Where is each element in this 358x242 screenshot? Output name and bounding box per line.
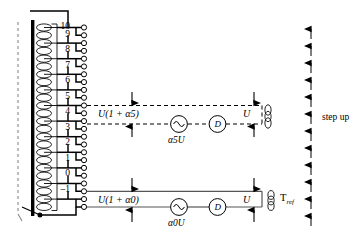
winding-coil: [37, 24, 52, 211]
lower-output-coil-icon: [268, 191, 274, 211]
tap-label-minus-1: –1: [50, 185, 70, 195]
reference-transformer-label: Tref: [280, 193, 294, 206]
step-up-label: step up: [322, 113, 349, 123]
tap-label-7: 7: [52, 61, 70, 71]
upper-output-label: U: [243, 109, 250, 119]
lower-detector-label: D: [215, 203, 222, 212]
tap-label-0: 0: [52, 169, 70, 179]
lower-output-label: U: [243, 195, 250, 205]
upper-source-label: α5U: [168, 136, 185, 146]
schematic-diagram: 10 9 8 7 6 5 4 3 2 1 0 –1 U(1 + α5) α5U …: [0, 0, 358, 242]
tap-label-4: 4: [52, 107, 70, 117]
lower-ac-source-icon: [171, 199, 188, 216]
tap-label-8: 8: [52, 45, 70, 55]
reference-transformer-subscript: ref: [286, 198, 294, 206]
bottom-supply-lead: [40, 207, 76, 215]
tap-label-5: 5: [52, 92, 70, 102]
tap-label-3: 3: [52, 123, 70, 133]
tap-label-2: 2: [52, 138, 70, 148]
tap-label-1: 1: [52, 154, 70, 164]
left-dashed-reference-line: [18, 22, 22, 221]
lower-source-label: α0U: [168, 219, 185, 229]
top-supply-lead: [30, 11, 68, 20]
magnetic-core-bar: [31, 20, 34, 216]
upper-output-coil-icon: [265, 105, 271, 128]
upper-ac-source-icon: [171, 116, 188, 133]
tap-label-9: 9: [52, 30, 70, 40]
upper-voltage-label: U(1 + α5): [98, 109, 139, 119]
tap-label-6: 6: [52, 76, 70, 86]
upper-detector-label: D: [215, 120, 222, 129]
lower-voltage-label: U(1 + α0): [98, 195, 139, 205]
tap-terminals[interactable]: [81, 25, 86, 210]
